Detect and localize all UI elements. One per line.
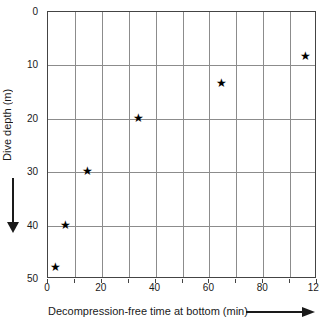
gridline-vertical	[263, 12, 264, 277]
gridline-vertical	[236, 12, 237, 277]
x-tick-label: 20	[95, 282, 106, 293]
gridline-vertical	[129, 12, 130, 277]
x-axis-tick	[74, 279, 75, 283]
gridline-vertical	[209, 12, 210, 277]
x-axis-tick	[128, 279, 129, 283]
y-tick-label: 40	[27, 219, 38, 230]
y-tick-label: 50	[27, 273, 38, 284]
scatter-chart: Dive depth (m) Decompression-free time a…	[0, 0, 319, 324]
x-axis-title: Decompression-free time at bottom (min)	[48, 305, 248, 317]
y-tick-label: 0	[32, 6, 38, 17]
gridline-vertical	[183, 12, 184, 277]
down-arrowhead-icon	[7, 222, 19, 233]
x-tick-label: 60	[203, 282, 214, 293]
y-tick-label: 20	[27, 112, 38, 123]
data-point-marker: ★	[60, 218, 71, 230]
gridline-vertical	[102, 12, 103, 277]
x-tick-label: 0	[44, 282, 50, 293]
data-point-marker: ★	[82, 165, 93, 177]
gridline-vertical	[290, 12, 291, 277]
gridline-horizontal	[48, 65, 315, 66]
data-point-marker: ★	[300, 50, 311, 62]
gridline-vertical	[75, 12, 76, 277]
data-point-marker: ★	[133, 112, 144, 124]
x-axis-tick	[289, 279, 290, 283]
x-tick-label: 80	[257, 282, 268, 293]
x-axis-tick	[182, 279, 183, 283]
y-tick-label: 10	[27, 59, 38, 70]
data-point-marker: ★	[216, 77, 227, 89]
x-axis-arrow-shaft	[246, 311, 302, 313]
gridline-vertical	[156, 12, 157, 277]
y-axis-arrow-shaft	[12, 178, 14, 223]
y-axis-title: Dive depth (m)	[1, 74, 15, 176]
data-point-marker: ★	[50, 261, 61, 273]
plot-area	[47, 11, 316, 278]
x-tick-label: 40	[149, 282, 160, 293]
gridline-horizontal	[48, 226, 315, 227]
x-axis-tick	[235, 279, 236, 283]
x-tick-label: 120	[308, 282, 319, 293]
y-tick-label: 30	[27, 166, 38, 177]
right-arrowhead-icon	[302, 307, 315, 317]
gridline-horizontal	[48, 119, 315, 120]
